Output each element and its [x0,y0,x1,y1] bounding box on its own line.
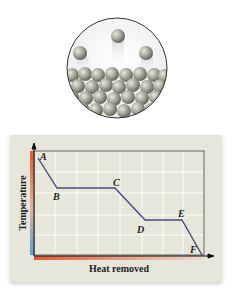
label-b: B [52,191,60,202]
heat-gradient-bar [34,256,204,260]
label-e: E [177,208,185,219]
label-c: C [113,177,120,188]
plot-frame [34,151,204,255]
temperature-gradient-bar [30,151,34,255]
gridlines [34,151,204,255]
label-a: A [39,151,47,162]
y-axis-label: Temperature [17,175,28,231]
label-d: D [136,224,144,235]
point-labels: A B C D E F [39,151,197,255]
x-axis-label: Heat removed [89,263,150,274]
cooling-curve-chart: A B C D E F Temperature Heat removed [0,0,234,297]
label-f: F [189,244,197,255]
